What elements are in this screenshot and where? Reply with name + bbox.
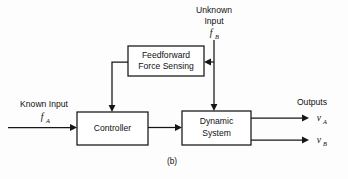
controller-block-label: Controller [94,123,131,133]
output-vb-symbol: v [317,134,322,145]
known-input-label: Known Input [20,99,68,109]
arrowhead-output-va [302,115,309,122]
unknown-input-label-line2: Input [204,16,224,26]
arrowhead-known-input-to-controller [70,124,77,131]
dynamic-system-block-label-line2: System [202,128,231,138]
block-diagram-canvas: Unknown Input f B Feedforward Force Sens… [0,0,348,179]
figure-caption: (b) [167,156,177,166]
known-input-symbol: f [41,111,45,122]
dynamic-system-block-label-line1: Dynamic [200,116,234,126]
arrowhead-fb-to-feedforward [204,59,211,66]
output-va-subscript: A [322,118,327,125]
arrowhead-output-vb [302,137,309,144]
output-vb-subscript: B [323,140,327,147]
arrowhead-fb-to-dynamic-system [211,104,218,111]
unknown-input-subscript: B [215,33,219,40]
known-input-subscript: A [45,117,50,124]
unknown-input-symbol: f [210,27,214,38]
arrowhead-controller-to-dynamic-system [175,124,182,131]
block-diagram-figure: Unknown Input f B Feedforward Force Sens… [0,0,348,179]
unknown-input-label-line1: Unknown [196,5,232,15]
output-va-symbol: v [317,112,322,123]
wire-feedforward-to-controller [112,62,128,105]
arrowhead-feedforward-to-controller [109,105,116,112]
outputs-heading: Outputs [297,97,327,107]
feedforward-block-label-line1: Feedforward [142,50,190,60]
feedforward-block-label-line2: Force Sensing [138,61,194,71]
